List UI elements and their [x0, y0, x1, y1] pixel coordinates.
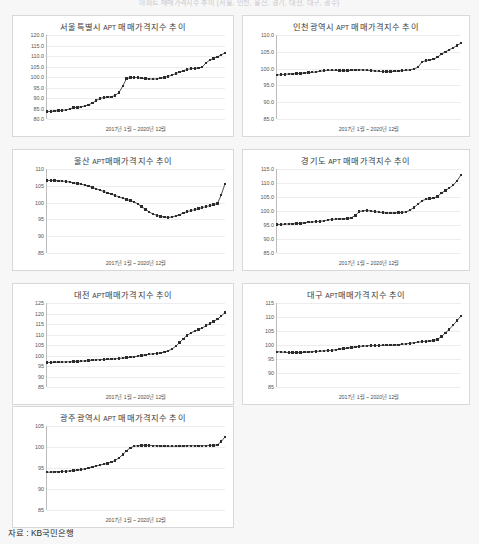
- data-point-marker: [178, 341, 180, 343]
- data-point-marker: [393, 212, 395, 214]
- data-point-marker: [327, 69, 329, 71]
- data-point-marker: [440, 192, 442, 194]
- data-point-marker: [436, 195, 438, 197]
- data-point-marker: [327, 349, 329, 351]
- y-axis-tick-label: 105: [35, 423, 44, 429]
- data-point-marker: [69, 470, 71, 472]
- data-point-marker: [72, 469, 74, 471]
- plot-area-incheon: 110.0105.0100.095.090.085.0: [277, 35, 461, 119]
- data-point-marker: [425, 59, 427, 61]
- data-point-marker: [163, 351, 165, 353]
- data-point-marker: [205, 445, 207, 447]
- y-axis-tick-label: 110.0: [261, 180, 274, 186]
- data-point-marker: [140, 77, 142, 79]
- data-point-marker: [156, 445, 158, 447]
- data-point-marker: [118, 91, 120, 93]
- document-heading: 아파트 매매가격지수 추이 (서울, 인천, 울산, 경기, 대전, 대구, 광…: [0, 0, 479, 7]
- data-point-marker: [323, 220, 325, 222]
- data-point-marker: [338, 69, 340, 71]
- data-point-marker: [216, 56, 218, 58]
- y-axis-tick-label: 95.0: [34, 85, 45, 91]
- chart-title-seoul: 서울특별시 APT 매매가격지수 추이: [13, 20, 233, 32]
- data-point-marker: [331, 349, 333, 351]
- chart-title-suffix: 매매가격지수 추이: [341, 157, 411, 166]
- data-point-marker: [397, 211, 399, 213]
- chart-title-apt-token: APT: [336, 24, 349, 31]
- data-point-marker: [106, 192, 108, 194]
- gridline: [47, 253, 225, 254]
- data-point-marker: [103, 463, 105, 465]
- data-point-marker: [448, 187, 450, 189]
- y-axis-tick-label: 90.0: [34, 95, 45, 101]
- data-point-marker: [197, 328, 199, 330]
- y-axis-tick-label: 100: [265, 342, 274, 348]
- data-point-marker: [110, 358, 112, 360]
- data-point-marker: [178, 71, 180, 73]
- data-point-marker: [338, 218, 340, 220]
- data-point-marker: [61, 109, 63, 111]
- data-point-marker: [114, 459, 116, 461]
- data-series-ulsan: [47, 169, 225, 253]
- data-point-marker: [159, 445, 161, 447]
- data-point-marker: [428, 59, 430, 61]
- data-point-marker: [291, 73, 293, 75]
- data-point-marker: [122, 85, 124, 87]
- data-point-marker: [378, 344, 380, 346]
- data-point-marker: [212, 203, 214, 205]
- data-point-marker: [106, 358, 108, 360]
- data-point-marker: [405, 69, 407, 71]
- chart-panel-gyeonggi: 경기도 APT 매매가격지수 추이115.0110.0105.0100.095.…: [242, 149, 470, 271]
- data-point-marker: [331, 69, 333, 71]
- data-point-marker: [456, 44, 458, 46]
- data-point-marker: [358, 69, 360, 71]
- y-axis-tick-label: 100.0: [261, 66, 275, 72]
- data-point-marker: [335, 349, 337, 351]
- data-point-marker: [452, 324, 454, 326]
- gridline: [277, 387, 461, 388]
- data-point-marker: [401, 69, 403, 71]
- data-point-marker: [428, 197, 430, 199]
- data-point-marker: [50, 179, 52, 181]
- data-point-marker: [144, 444, 146, 446]
- data-point-marker: [432, 197, 434, 199]
- data-point-marker: [460, 315, 462, 317]
- data-point-marker: [80, 106, 82, 108]
- x-axis-caption-daejeon: 2017년 1월 ~ 2020년 12월: [47, 393, 225, 400]
- chart-panel-ulsan: 울산 APT매매가격지수 추이1101051009590852017년 1월 ~…: [12, 149, 234, 271]
- data-point-marker: [152, 78, 154, 80]
- data-point-marker: [311, 221, 313, 223]
- data-point-marker: [366, 209, 368, 211]
- data-point-marker: [209, 59, 211, 61]
- data-point-marker: [382, 344, 384, 346]
- data-point-marker: [95, 99, 97, 101]
- y-axis-tick-label: 95: [38, 216, 44, 222]
- data-point-marker: [295, 351, 297, 353]
- data-point-marker: [122, 453, 124, 455]
- data-point-marker: [216, 202, 218, 204]
- data-point-marker: [393, 70, 395, 72]
- data-point-marker: [288, 351, 290, 353]
- data-point-marker: [428, 340, 430, 342]
- data-point-marker: [194, 67, 196, 69]
- data-point-marker: [385, 70, 387, 72]
- data-point-marker: [385, 212, 387, 214]
- data-point-marker: [436, 338, 438, 340]
- data-point-marker: [171, 445, 173, 447]
- data-point-marker: [311, 71, 313, 73]
- data-point-marker: [385, 344, 387, 346]
- data-point-marker: [194, 445, 196, 447]
- data-point-marker: [323, 350, 325, 352]
- data-point-marker: [76, 182, 78, 184]
- data-point-marker: [182, 70, 184, 72]
- data-point-marker: [95, 188, 97, 190]
- data-point-marker: [80, 468, 82, 470]
- chart-title-prefix: 대구: [307, 291, 326, 300]
- data-point-marker: [91, 186, 93, 188]
- chart-title-prefix: 대전: [74, 291, 93, 300]
- data-point-marker: [197, 67, 199, 69]
- data-point-marker: [413, 68, 415, 70]
- y-axis-tick-label: 85.0: [264, 250, 275, 256]
- chart-panel-seoul: 서울특별시 APT 매매가격지수 추이120.0115.0110.0105.01…: [12, 15, 234, 137]
- data-point-marker: [144, 208, 146, 210]
- data-point-marker: [432, 339, 434, 341]
